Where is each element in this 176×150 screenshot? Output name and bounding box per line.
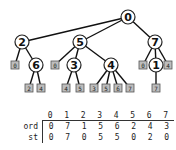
tree-edge [80,17,128,42]
leaf-box: 4 [37,84,45,92]
leaf-box: 0 [51,61,59,69]
leaf-box: 7 [126,84,134,92]
tree-node-label: 4 [107,59,115,72]
leaf-box: 3 [90,84,98,92]
leaf-box-label: 5 [104,85,108,92]
header-cell: 1 [59,110,76,120]
tree-node-label: 2 [18,36,26,49]
tree-node-label: 1 [152,59,160,72]
leaf-box-label: 5 [78,85,82,92]
table-cell: 5 [93,132,110,143]
tree-node: 5 [73,35,87,49]
tree-node-label: 6 [32,59,40,72]
leaf-box: 5 [102,84,110,92]
table-header-row: 0 1 2 3 4 5 6 7 [12,110,175,121]
tree-node: 1 [149,58,163,72]
table-cell: 7 [60,132,77,143]
tree-node: 6 [29,58,43,72]
leaf-box: 5 [76,84,84,92]
header-label-spacer [12,110,42,121]
table-cell: 0 [43,121,60,132]
leaf-box-label: 0 [13,62,17,69]
header-cell: 0 [42,110,59,120]
leaf-box-label: 7 [154,85,158,92]
table-cell: 0 [159,132,176,143]
leaf-box-label: 4 [166,62,170,69]
table-cell: 4 [142,121,159,132]
ord-st-table: 0 1 2 3 4 5 6 7 ord 0 7 1 5 6 2 4 3 st 0… [12,110,175,143]
table-cell: 3 [159,121,176,132]
leaf-box-label: 0 [53,62,57,69]
tree-edges [15,17,168,88]
tree-diagram: 000424453567702576341 [0,0,176,105]
tree-node: 0 [121,10,135,24]
leaf-box-label: 6 [116,85,120,92]
leaf-box-label: 0 [141,62,145,69]
tree-node-label: 3 [70,59,78,72]
tree-node: 7 [148,35,162,49]
tree-node: 3 [67,58,81,72]
leaf-box: 0 [139,61,147,69]
table-cell: 0 [43,132,60,143]
header-cell: 2 [75,110,92,120]
leaf-box-label: 7 [128,85,132,92]
leaf-box-label: 4 [39,85,43,92]
table-cell: 2 [126,121,143,132]
tree-node: 2 [15,35,29,49]
leaf-box: 2 [25,84,33,92]
header-cell: 3 [92,110,109,120]
header-cell: 6 [141,110,158,120]
row-label: st [12,132,42,143]
table-cell: 5 [93,121,110,132]
header-cell: 5 [125,110,142,120]
leaf-box: 6 [114,84,122,92]
leaf-box: 0 [11,61,19,69]
leaf-box: 7 [152,84,160,92]
table-row-st: st 0 7 0 5 5 0 2 0 [12,132,175,143]
leaf-box-label: 4 [64,85,68,92]
tree-node-label: 0 [124,11,132,24]
leaf-box: 4 [62,84,70,92]
leaf-box-label: 2 [27,85,31,92]
table-cell: 5 [109,132,126,143]
table-cell: 2 [142,132,159,143]
leaf-box-label: 3 [92,85,96,92]
table-cell: 0 [126,132,143,143]
table-cell: 6 [109,121,126,132]
tree-node-label: 5 [76,36,84,49]
table-row-ord: ord 0 7 1 5 6 2 4 3 [12,121,175,132]
leaf-box: 4 [164,61,172,69]
tree-node: 4 [104,58,118,72]
table-cell: 0 [76,132,93,143]
table-cell: 1 [76,121,93,132]
header-cell: 4 [108,110,125,120]
table-cell: 7 [60,121,77,132]
header-cell: 7 [158,110,175,120]
tree-node-label: 7 [151,36,159,49]
row-label: ord [12,121,42,132]
